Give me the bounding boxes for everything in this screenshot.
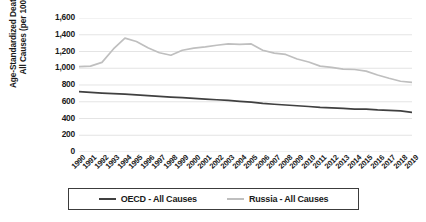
legend-item[interactable]: Russia - All Causes xyxy=(227,194,328,204)
chart-legend: OECD - All CausesRussia - All Causes xyxy=(68,188,359,210)
y-tick-label: 1,000 xyxy=(33,62,75,72)
plot-svg xyxy=(79,18,412,152)
y-tick-label: 600 xyxy=(33,96,75,106)
legend-swatch-icon xyxy=(227,198,244,200)
y-tick-label: 800 xyxy=(33,79,75,89)
y-tick-label: 0 xyxy=(33,146,75,156)
y-axis-title-line-1: Age-Standardized Death Rates, xyxy=(8,0,19,88)
y-tick-label: 1,200 xyxy=(33,46,75,56)
y-axis-title: Age-Standardized Death Rates, All Causes… xyxy=(4,0,32,103)
gridlines xyxy=(79,18,412,152)
y-axis-title-line-2: All Causes (per 100,000) xyxy=(18,0,29,88)
chart-container: Age-Standardized Death Rates, All Causes… xyxy=(0,0,426,222)
legend-swatch-icon xyxy=(99,198,116,200)
legend-label: Russia - All Causes xyxy=(249,194,328,204)
plot-area xyxy=(79,18,412,152)
y-tick-label: 1,600 xyxy=(33,12,75,22)
y-tick-label: 200 xyxy=(33,129,75,139)
legend-label: OECD - All Causes xyxy=(121,194,197,204)
x-axis-tick-labels: 1990199119921993199419951996199719981999… xyxy=(79,153,419,187)
series-lines xyxy=(79,38,412,112)
series-line-russia xyxy=(79,38,412,82)
y-tick-label: 1,400 xyxy=(33,29,75,39)
legend-item[interactable]: OECD - All Causes xyxy=(99,194,197,204)
y-tick-label: 400 xyxy=(33,113,75,123)
